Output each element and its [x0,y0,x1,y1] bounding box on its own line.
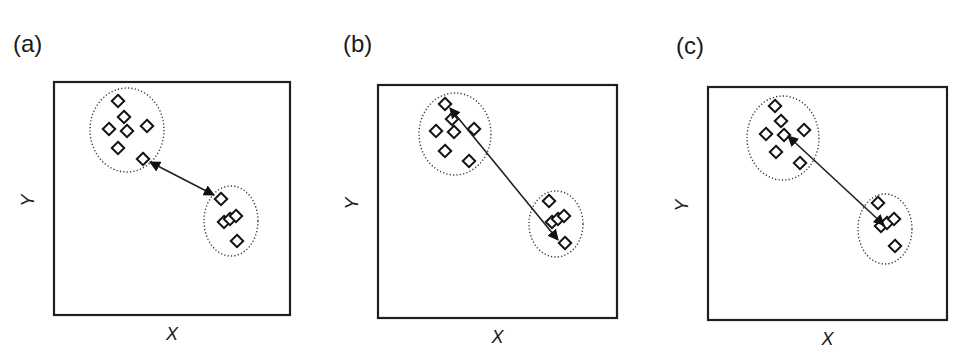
panel-label: (c) [676,32,704,59]
panel-c: (c)XY [672,32,947,349]
panel-label: (a) [13,30,42,57]
plot-frame [54,82,290,315]
panel-a: (a)XY [13,30,290,344]
x-axis-label: X [490,327,504,347]
x-axis-label: X [165,324,179,344]
plot-frame [378,85,617,318]
panel-label: (b) [343,30,372,57]
y-axis-label: Y [18,193,38,207]
x-axis-label: X [820,329,834,349]
plot-frame [708,87,947,320]
panel-b: (b)XY [342,30,617,347]
y-axis-label: Y [342,196,362,210]
y-axis-label: Y [672,198,692,212]
cluster-distance-figure: (a)XY(b)XY(c)XY [0,0,961,358]
